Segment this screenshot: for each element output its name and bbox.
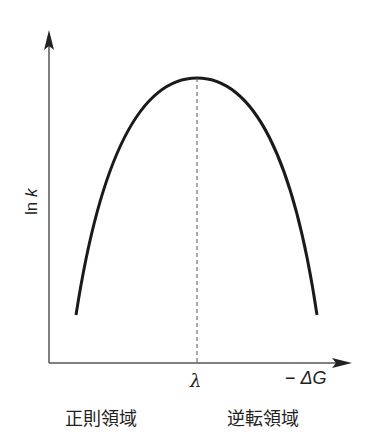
normal-region-label: 正則領域 bbox=[65, 404, 137, 430]
x-axis-label: − ΔG bbox=[285, 368, 327, 389]
inverted-region-label: 逆転領域 bbox=[227, 404, 299, 430]
y-axis-label: ln k bbox=[22, 189, 42, 215]
lambda-label: λ bbox=[190, 370, 201, 391]
